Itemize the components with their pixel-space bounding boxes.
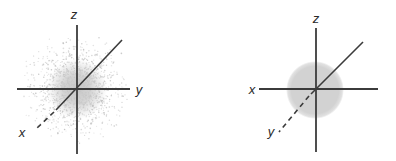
y-axis-label: y <box>135 82 144 97</box>
y-axis-label: y <box>267 124 276 139</box>
dot-density-diagram: z y x <box>17 7 144 154</box>
boundary-surface-diagram: z x y <box>248 11 378 152</box>
x-axis-label: x <box>18 125 26 140</box>
z-axis-label: z <box>70 7 78 22</box>
x-axis-label: x <box>248 82 256 97</box>
z-axis-label: z <box>312 11 320 26</box>
orbital-figure: z y x z x y <box>0 0 396 161</box>
x-axis-dashed-line <box>36 112 54 129</box>
orbital-figure-svg: z y x z x y <box>0 0 396 161</box>
